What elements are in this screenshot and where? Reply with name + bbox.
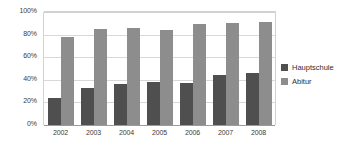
bar-abitur-2007: [226, 23, 239, 125]
bar-abitur-2004: [127, 28, 140, 125]
legend-item[interactable]: Hauptschule: [281, 61, 359, 73]
bar-group: [77, 12, 110, 125]
bar-hauptschule-2007: [213, 75, 226, 125]
x-axis-tick-label: 2006: [176, 128, 209, 142]
bars-layer: [44, 12, 275, 125]
bar-hauptschule-2003: [81, 88, 94, 125]
bar-abitur-2006: [193, 24, 206, 125]
bar-group: [110, 12, 143, 125]
x-axis-tick-label: 2002: [44, 128, 77, 142]
y-axis-tick-label: 100%: [0, 7, 41, 14]
bar-group: [143, 12, 176, 125]
x-axis-tick-label: 2003: [77, 128, 110, 142]
x-axis-tick-label: 2008: [242, 128, 275, 142]
legend-item-label: Abitur: [292, 77, 312, 86]
y-axis-tick-label: 20%: [0, 97, 41, 104]
bar-abitur-2005: [160, 30, 173, 125]
bar-hauptschule-2008: [246, 73, 259, 125]
plot-area: [44, 11, 276, 125]
x-axis-tick-label: 2007: [209, 128, 242, 142]
x-axis-tick-label: 2005: [143, 128, 176, 142]
y-axis-tick-label: 60%: [0, 52, 41, 59]
legend-item-label: Hauptschule: [292, 63, 334, 72]
bar-abitur-2002: [61, 37, 74, 125]
bar-chart: 0%20%40%60%80%100% 200220032004200520062…: [0, 0, 361, 148]
bar-group: [209, 12, 242, 125]
legend-swatch-hauptschule: [281, 64, 288, 71]
y-axis: 0%20%40%60%80%100%: [0, 0, 41, 148]
bar-hauptschule-2004: [114, 84, 127, 125]
bar-hauptschule-2005: [147, 82, 160, 125]
y-axis-tick-label: 40%: [0, 75, 41, 82]
x-axis: 2002200320042005200620072008: [44, 128, 275, 142]
bar-abitur-2008: [259, 22, 272, 125]
y-axis-tick-label: 0%: [0, 120, 41, 127]
x-axis-tick-label: 2004: [110, 128, 143, 142]
y-axis-tick-label: 80%: [0, 30, 41, 37]
legend-swatch-abitur: [281, 78, 288, 85]
bar-group: [176, 12, 209, 125]
chart-legend: HauptschuleAbitur: [281, 61, 359, 89]
bar-hauptschule-2006: [180, 83, 193, 125]
legend-item[interactable]: Abitur: [281, 75, 359, 87]
x-axis-line: [44, 125, 275, 126]
bar-hauptschule-2002: [48, 98, 61, 125]
bar-abitur-2003: [94, 29, 107, 125]
bar-group: [44, 12, 77, 125]
bar-group: [242, 12, 275, 125]
